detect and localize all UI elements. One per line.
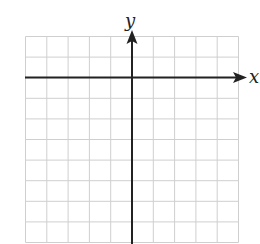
coordinate-plane: x y bbox=[0, 0, 260, 244]
y-axis: y bbox=[124, 10, 138, 244]
x-axis: x bbox=[25, 66, 259, 87]
y-axis-label: y bbox=[124, 10, 136, 31]
x-axis-label: x bbox=[249, 66, 259, 87]
